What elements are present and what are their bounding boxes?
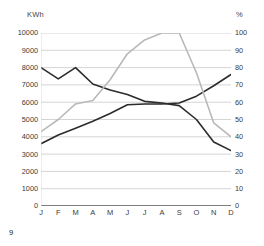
- right-tick-label: 10: [235, 185, 243, 192]
- left-tick-label: 9000: [22, 47, 38, 54]
- right-axis-tick-labels: 0102030405060708090100: [235, 33, 259, 206]
- right-axis-unit-label: %: [236, 10, 243, 19]
- month-label-m-2: M: [72, 209, 78, 217]
- left-tick-label: 4000: [22, 133, 38, 140]
- right-tick-label: 100: [235, 29, 247, 36]
- x-axis-month-labels: JFMAMJJASOND: [41, 209, 231, 221]
- month-label-j-0: J: [39, 209, 43, 217]
- right-tick-label: 30: [235, 151, 243, 158]
- right-tick-label: 80: [235, 64, 243, 71]
- month-label-f-1: F: [56, 209, 61, 217]
- month-label-o-9: O: [194, 209, 200, 217]
- month-label-d-11: D: [228, 209, 233, 217]
- line-chart-svg: [41, 33, 231, 206]
- left-axis-unit-label: KWh: [27, 10, 44, 19]
- left-tick-label: 0: [34, 202, 38, 209]
- month-label-j-5: J: [125, 209, 129, 217]
- month-label-a-7: A: [159, 209, 164, 217]
- right-tick-label: 70: [235, 81, 243, 88]
- month-label-j-6: J: [143, 209, 147, 217]
- left-tick-label: 8000: [22, 64, 38, 71]
- right-tick-label: 50: [235, 116, 243, 123]
- right-tick-label: 40: [235, 133, 243, 140]
- month-label-a-3: A: [90, 209, 95, 217]
- right-tick-label: 60: [235, 99, 243, 106]
- right-tick-label: 0: [235, 202, 239, 209]
- left-axis-tick-labels: 0100020003000400050006000700080009000100…: [12, 33, 38, 206]
- page-number: 9: [9, 228, 13, 237]
- left-tick-label: 5000: [22, 116, 38, 123]
- left-tick-label: 1000: [22, 185, 38, 192]
- left-tick-label: 2000: [22, 168, 38, 175]
- right-tick-label: 90: [235, 47, 243, 54]
- gridlines: [41, 33, 231, 189]
- chart-page: KWh % 0100020003000400050006000700080009…: [0, 0, 264, 246]
- month-label-s-8: S: [177, 209, 182, 217]
- month-label-m-4: M: [107, 209, 113, 217]
- left-tick-label: 6000: [22, 99, 38, 106]
- month-label-n-10: N: [211, 209, 216, 217]
- right-tick-label: 20: [235, 168, 243, 175]
- plot-area: [41, 33, 231, 206]
- left-tick-label: 7000: [22, 81, 38, 88]
- left-tick-label: 10000: [18, 29, 38, 36]
- left-tick-label: 3000: [22, 151, 38, 158]
